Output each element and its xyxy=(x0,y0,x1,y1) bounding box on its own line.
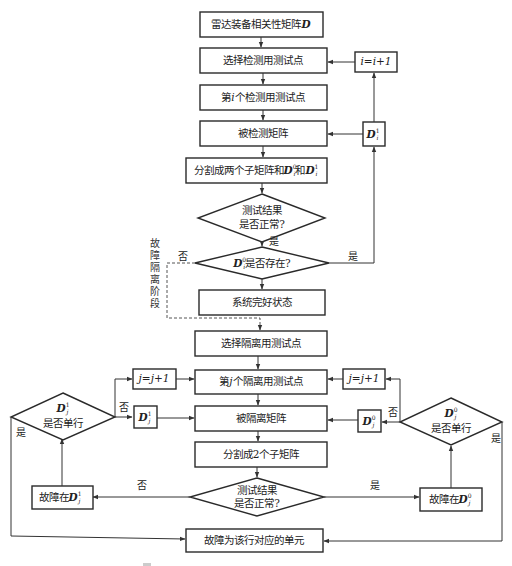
right-matrix-dj0-box: D0j xyxy=(358,410,381,432)
select-detection-point-box: 选择检测用测试点 xyxy=(200,48,327,73)
svg-text:障: 障 xyxy=(150,249,160,261)
left-matrix-dj1-box: D1j xyxy=(134,406,157,428)
svg-text:j=j+1: j=j+1 xyxy=(347,372,380,384)
svg-text:j=j+1: j=j+1 xyxy=(137,372,170,384)
edge-label-no: 否 xyxy=(388,407,398,418)
edge-label-no: 否 xyxy=(119,402,129,413)
svg-text:故障为该行对应的单元: 故障为该行对应的单元 xyxy=(204,534,305,546)
split-box: 分割成两个子矩阵和D0i和D1i xyxy=(186,158,327,183)
svg-text:被隔离矩阵: 被隔离矩阵 xyxy=(236,412,287,424)
svg-text:隔: 隔 xyxy=(150,262,160,273)
edge-label-yes: 是 xyxy=(370,480,380,491)
svg-text:i=i+1: i=i+1 xyxy=(361,55,392,67)
svg-text:雷达装备相关性矩阵D: 雷达装备相关性矩阵D xyxy=(211,18,311,30)
edge-label-yes: 是 xyxy=(269,236,279,247)
increment-i-box: i=i+1 xyxy=(355,52,397,72)
edge-label-yes: 是 xyxy=(16,427,26,438)
side-matrix-di1-box: D1i xyxy=(363,122,385,146)
svg-text:系统完好状态: 系统完好状态 xyxy=(232,296,293,308)
svg-text:测试结果: 测试结果 xyxy=(237,484,278,496)
right-decision-single-row: D0j 是否单行 xyxy=(400,398,502,445)
fault-in-dj0-box: 故障在D0j xyxy=(420,488,482,511)
ith-detection-point-box: 第i个检测用测试点 xyxy=(200,85,327,110)
flowchart-canvas: 雷达装备相关性矩阵D 选择检测用测试点 第i个检测用测试点 被检测矩阵 分割成两… xyxy=(0,0,512,566)
decision-test-result-normal: 测试结果 是否正常? xyxy=(198,194,325,242)
jth-isolation-point-box: 第j个隔离用测试点 xyxy=(195,370,327,394)
svg-text:D0i是否存在?: D0i是否存在? xyxy=(232,256,291,270)
svg-text:被检测矩阵: 被检测矩阵 xyxy=(238,127,289,139)
fault-isolation-phase-label: 故 障 隔 离 阶 段 xyxy=(150,237,160,309)
svg-text:是否单行: 是否单行 xyxy=(43,417,84,429)
isolated-matrix-box: 被隔离矩阵 xyxy=(195,406,327,431)
svg-text:分割成两个子矩阵和D0i和D1i: 分割成两个子矩阵和D0i和D1i xyxy=(194,163,319,177)
split-two-submatrices-box: 分割成2个子矩阵 xyxy=(195,442,327,467)
svg-text:选择隔离用测试点: 选择隔离用测试点 xyxy=(221,337,301,349)
svg-text:段: 段 xyxy=(150,297,160,309)
svg-text:故障在D0j: 故障在D0j xyxy=(429,492,472,507)
select-isolation-point-box: 选择隔离用测试点 xyxy=(195,331,327,356)
edge-label-no: 否 xyxy=(178,251,188,262)
svg-text:第j个隔离用测试点: 第j个隔离用测试点 xyxy=(219,375,302,387)
fault-in-dj1-box: 故障在D1j xyxy=(32,486,93,509)
svg-text:阶: 阶 xyxy=(150,285,160,297)
svg-text:是否正常?: 是否正常? xyxy=(234,497,280,509)
svg-text:是否正常?: 是否正常? xyxy=(239,218,285,230)
svg-text:是否单行: 是否单行 xyxy=(431,422,472,434)
final-fault-unit-box: 故障为该行对应的单元 xyxy=(186,529,323,552)
svg-text:故障在D1j: 故障在D1j xyxy=(39,490,82,505)
svg-text:选择检测用测试点: 选择检测用测试点 xyxy=(223,54,303,66)
svg-text:D1j: D1j xyxy=(56,401,70,416)
system-good-state-box: 系统完好状态 xyxy=(199,290,325,315)
tested-matrix-box: 被检测矩阵 xyxy=(200,121,327,146)
left-decision-single-row: D1j 是否单行 xyxy=(11,393,115,440)
svg-text:第i个检测用测试点: 第i个检测用测试点 xyxy=(221,91,304,103)
svg-text:D0j: D0j xyxy=(444,406,458,421)
svg-text:D1j: D1j xyxy=(138,410,152,425)
edge-label-yes: 是 xyxy=(491,433,501,444)
start-box: 雷达装备相关性矩阵D xyxy=(200,12,323,37)
svg-text:离: 离 xyxy=(150,273,160,285)
left-increment-j-box: j=j+1 xyxy=(133,369,176,389)
edge-label-yes: 是 xyxy=(348,251,358,262)
right-increment-j-box: j=j+1 xyxy=(343,369,385,389)
edge-label-no: 否 xyxy=(137,480,147,491)
decision-d0-exists: D0i是否存在? xyxy=(195,247,329,279)
svg-text:分割成2个子矩阵: 分割成2个子矩阵 xyxy=(223,448,301,460)
svg-text:故: 故 xyxy=(150,237,160,249)
decision-isolation-test-normal: 测试结果 是否正常? xyxy=(190,478,324,516)
svg-text:测试结果: 测试结果 xyxy=(242,204,283,216)
svg-text:D1i: D1i xyxy=(366,127,380,141)
svg-text:D0j: D0j xyxy=(362,414,376,429)
